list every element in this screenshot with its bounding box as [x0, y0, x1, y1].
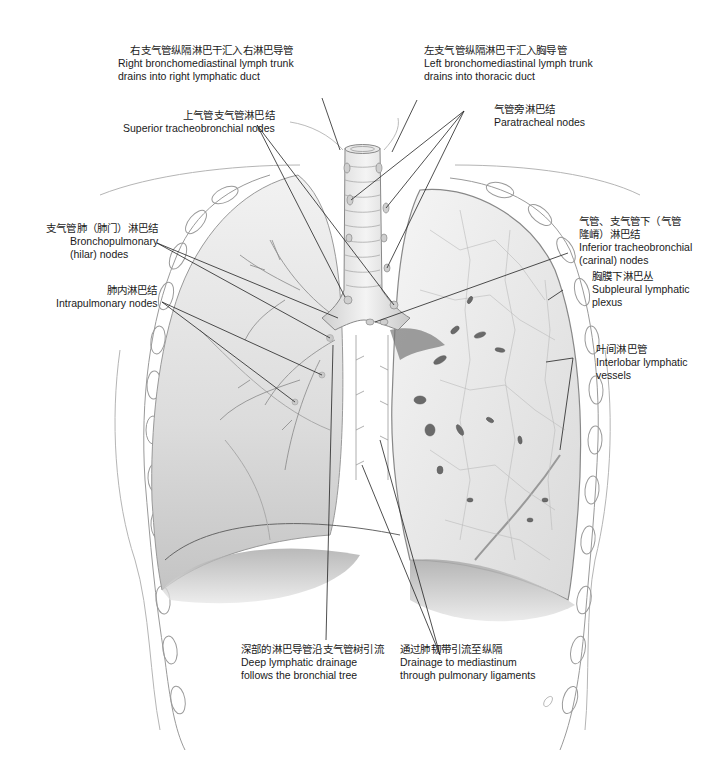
label-inferior-tracheobronchial-zh2: 隆嵴）淋巴结 [579, 228, 692, 241]
label-right-trunk-en1: Right bronchomediastinal lymph trunk [118, 57, 294, 70]
artist-signature [544, 696, 553, 706]
label-interlobar: 叶间淋巴管 Interlobar lymphatic vessels [596, 343, 688, 382]
label-intrapulmonary-en1: Intrapulmonary nodes [56, 297, 158, 310]
pulmonary-ligament [356, 335, 388, 480]
label-left-trunk: 左支气管纵隔淋巴干汇入胸导管 Left bronchomediastinal l… [424, 44, 593, 83]
label-deep-drainage: 深部的淋巴导管沿支气管树引流 Deep lymphatic drainage f… [241, 643, 384, 682]
label-right-trunk-en2: drains into right lymphatic duct [118, 70, 294, 83]
label-ligament-drainage-en2: through pulmonary ligaments [400, 669, 535, 682]
label-ligament-drainage: 通过肺韧带引流至纵隔 Drainage to mediastinum throu… [400, 643, 535, 682]
label-inferior-tracheobronchial-en1: Inferior tracheobronchial [579, 241, 692, 254]
label-ligament-drainage-en1: Drainage to mediastinum [400, 656, 535, 669]
label-intrapulmonary: 肺内淋巴结 Intrapulmonary nodes [56, 284, 158, 310]
label-subpleural-en2: plexus [592, 296, 689, 309]
label-deep-drainage-en2: follows the bronchial tree [241, 669, 384, 682]
label-left-trunk-en2: drains into thoracic duct [424, 70, 593, 83]
label-inferior-tracheobronchial: 气管、支气管下（气管 隆嵴）淋巴结 Inferior tracheobronch… [579, 215, 692, 267]
label-left-trunk-en1: Left bronchomediastinal lymph trunk [424, 57, 593, 70]
label-paratracheal: 气管旁淋巴结 Paratracheal nodes [494, 103, 585, 129]
label-right-trunk: 右支气管纵隔淋巴干汇入右淋巴导管 Right bronchomediastina… [118, 44, 294, 83]
label-subpleural-zh: 胸膜下淋巴丛 [592, 270, 689, 283]
label-bronchopulmonary-zh: 支气管肺（肺门）淋巴结 [42, 222, 158, 235]
label-interlobar-zh: 叶间淋巴管 [596, 343, 688, 356]
label-interlobar-en2: vessels [596, 369, 688, 382]
label-ligament-drainage-zh: 通过肺韧带引流至纵隔 [400, 643, 535, 656]
label-bronchopulmonary-en2: (hilar) nodes [42, 248, 158, 261]
label-left-trunk-zh: 左支气管纵隔淋巴干汇入胸导管 [424, 44, 593, 57]
label-inferior-tracheobronchial-en2: (carinal) nodes [579, 254, 692, 267]
left-lung [390, 189, 581, 621]
label-interlobar-en1: Interlobar lymphatic [596, 356, 688, 369]
label-deep-drainage-en1: Deep lymphatic drainage [241, 656, 384, 669]
label-superior-tracheobronchial: 上气管支气管淋巴结 Superior tracheobronchial node… [123, 109, 275, 135]
label-superior-tracheobronchial-zh: 上气管支气管淋巴结 [123, 109, 275, 122]
label-paratracheal-en1: Paratracheal nodes [494, 116, 585, 129]
label-bronchopulmonary-en1: Bronchopulmonary [42, 235, 158, 248]
label-right-trunk-zh: 右支气管纵隔淋巴干汇入右淋巴导管 [118, 44, 294, 57]
label-deep-drainage-zh: 深部的淋巴导管沿支气管树引流 [241, 643, 384, 656]
label-intrapulmonary-zh: 肺内淋巴结 [56, 284, 158, 297]
label-subpleural: 胸膜下淋巴丛 Subpleural lymphatic plexus [592, 270, 689, 309]
label-superior-tracheobronchial-en1: Superior tracheobronchial nodes [123, 122, 275, 135]
label-bronchopulmonary: 支气管肺（肺门）淋巴结 Bronchopulmonary (hilar) nod… [42, 222, 158, 261]
label-paratracheal-zh: 气管旁淋巴结 [494, 103, 585, 116]
label-subpleural-en1: Subpleural lymphatic [592, 283, 689, 296]
label-inferior-tracheobronchial-zh1: 气管、支气管下（气管 [579, 215, 692, 228]
